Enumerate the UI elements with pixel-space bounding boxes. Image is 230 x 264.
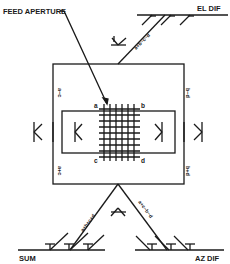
arm-label-bottom-left: a+c [57,166,63,175]
feed-aperture-leader [60,11,107,104]
el-dif-line [118,15,228,64]
corner-label-d: d [141,157,145,164]
feed-aperture-label: FEED APERTURE [3,7,66,16]
hybrid-tee-far-right [184,122,202,142]
hybrid-tee-top [111,36,126,45]
corner-label-b: b [141,102,145,109]
sum-feed-label: a+b+c+d [79,213,96,233]
monopulse-comparator-diagram: FEED APERTURE EL DIF SUM AZ DIF a b c d … [0,0,230,264]
el-dif-label: EL DIF [197,4,221,13]
comparator-outer-box [53,64,184,184]
corner-label-a: a [94,102,98,109]
arrowhead-icon [103,98,108,104]
hybrid-tee-right [155,122,162,142]
arm-label-bottom-right: b+d [185,166,191,176]
sum-line [18,184,118,250]
sum-label: SUM [19,254,36,263]
hybrid-tee-far-left [34,122,53,142]
corner-label-c: c [94,157,98,164]
az-dif-label: AZ DIF [195,254,220,263]
az-dif-feed-label: a+c−b−d [137,199,154,219]
hybrid-tee-bottom [111,208,126,216]
aperture-box [62,111,175,153]
hybrid-tee-left [75,122,82,142]
el-dif-feed-label: a+b−c−d [132,32,151,51]
arm-label-top-left: a−c [57,88,63,97]
az-dif-line [118,184,224,250]
arm-label-top-right: b−d [185,88,191,98]
